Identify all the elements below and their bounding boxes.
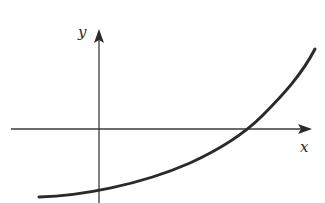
x-axis-label: x xyxy=(300,138,309,156)
graph-canvas: y x xyxy=(0,0,325,203)
function-curve xyxy=(39,49,315,197)
y-axis-label: y xyxy=(77,23,87,41)
